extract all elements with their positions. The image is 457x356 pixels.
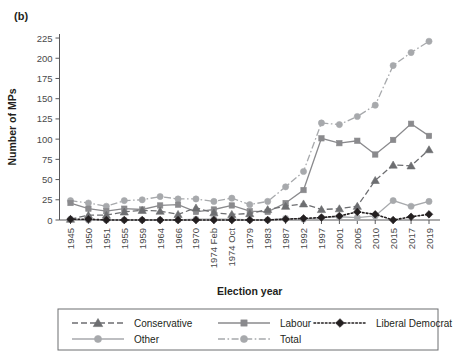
- data-point: [229, 203, 234, 208]
- legend-marker: [240, 335, 247, 342]
- y-tick-label: 125: [37, 113, 53, 124]
- data-point: [319, 136, 324, 141]
- y-tick-group: 0255075100125150175200225: [37, 33, 60, 226]
- x-tick-label: 1974 Feb: [208, 228, 219, 268]
- x-tick-label: 1945: [65, 228, 76, 249]
- data-point: [390, 197, 396, 203]
- y-tick-label: 25: [42, 194, 53, 205]
- data-point: [407, 213, 415, 221]
- x-tick-label: 2001: [334, 228, 345, 249]
- data-point: [156, 216, 164, 224]
- legend-marker: [336, 319, 345, 328]
- data-point: [300, 168, 306, 174]
- data-point: [390, 137, 395, 142]
- data-point: [389, 216, 397, 224]
- data-point: [85, 200, 91, 206]
- data-point: [299, 200, 307, 207]
- legend-label: Liberal Democrat: [376, 318, 452, 329]
- axes: [60, 34, 441, 220]
- data-point: [175, 196, 181, 202]
- x-tick-label: 1997: [316, 228, 327, 249]
- figure-panel-b: (b) 025507510012515017520022519451950195…: [0, 0, 457, 356]
- data-point: [372, 102, 378, 108]
- x-tick-label: 1974 Oct: [226, 228, 237, 267]
- data-point: [301, 187, 306, 192]
- data-point: [337, 140, 342, 145]
- legend-item-conservative[interactable]: Conservative: [72, 318, 193, 329]
- panel-label: (b): [14, 10, 28, 22]
- data-point: [426, 133, 431, 138]
- x-tick-label: 2010: [370, 228, 381, 249]
- legend: ConservativeLabourLiberal DemocratOtherT…: [58, 309, 452, 350]
- data-point: [192, 204, 200, 211]
- x-tick-label: 2015: [388, 228, 399, 249]
- legend-label: Other: [134, 334, 160, 345]
- y-tick-label: 0: [47, 215, 52, 226]
- data-point: [120, 216, 128, 224]
- data-point: [139, 197, 145, 203]
- x-tick-label: 1959: [137, 228, 148, 249]
- legend-label: Labour: [280, 318, 312, 329]
- legend-item-other[interactable]: Other: [72, 334, 160, 345]
- y-tick-label: 100: [37, 134, 53, 145]
- data-point: [283, 184, 289, 190]
- legend-border: [58, 309, 438, 350]
- data-point: [193, 196, 199, 202]
- data-point: [264, 216, 272, 224]
- y-axis-title: Number of MPs: [6, 88, 18, 165]
- x-tick-label: 1964: [155, 228, 166, 249]
- legend-label: Total: [280, 334, 301, 345]
- data-point: [354, 113, 360, 119]
- legend-item-labour[interactable]: Labour: [218, 318, 312, 329]
- data-point: [355, 138, 360, 143]
- data-point: [336, 121, 342, 127]
- data-point: [68, 200, 73, 205]
- data-point: [211, 198, 217, 204]
- x-tick-label: 2019: [424, 228, 435, 249]
- data-point: [425, 211, 433, 219]
- data-point: [157, 193, 163, 199]
- data-point: [408, 50, 414, 56]
- x-tick-label: 1983: [262, 228, 273, 249]
- data-point: [373, 152, 378, 157]
- x-tick-label: 1966: [173, 228, 184, 249]
- y-tick-label: 75: [42, 154, 53, 165]
- x-tick-label: 1950: [83, 228, 94, 249]
- x-tick-label: 1979: [244, 228, 255, 249]
- data-point: [408, 203, 414, 209]
- legend-marker: [241, 320, 247, 326]
- data-point: [138, 216, 146, 224]
- data-point: [389, 161, 397, 168]
- x-tick-label: 1955: [119, 228, 130, 249]
- x-tick-label: 1992: [298, 228, 309, 249]
- data-point: [246, 216, 254, 224]
- data-point: [121, 197, 127, 203]
- legend-item-liberal-democrat[interactable]: Liberal Democrat: [314, 318, 452, 329]
- data-point: [318, 120, 324, 126]
- data-point: [408, 121, 413, 126]
- x-tick-label: 2017: [406, 228, 417, 249]
- y-tick-label: 225: [37, 33, 53, 44]
- legend-marker: [94, 335, 101, 342]
- y-tick-label: 150: [37, 93, 53, 104]
- data-point: [175, 202, 180, 207]
- y-tick-label: 175: [37, 73, 53, 84]
- x-tick-group: 194519501951195519591964196619701974 Feb…: [65, 220, 435, 268]
- legend-item-total[interactable]: Total: [218, 334, 301, 345]
- x-tick-label: 1951: [101, 228, 112, 249]
- data-point: [390, 62, 396, 68]
- x-tick-label: 1987: [280, 228, 291, 249]
- data-point: [426, 198, 432, 204]
- data-point: [265, 198, 271, 204]
- y-tick-label: 200: [37, 53, 53, 64]
- data-point: [229, 195, 235, 201]
- x-axis-title: Election year: [217, 285, 282, 297]
- y-tick-label: 50: [42, 174, 53, 185]
- legend-label: Conservative: [134, 318, 193, 329]
- data-point: [426, 38, 432, 44]
- data-point: [247, 202, 253, 208]
- line-chart: 0255075100125150175200225194519501951195…: [0, 0, 457, 356]
- x-tick-label: 1970: [190, 228, 201, 249]
- data-point: [425, 146, 433, 153]
- data-point: [86, 206, 91, 211]
